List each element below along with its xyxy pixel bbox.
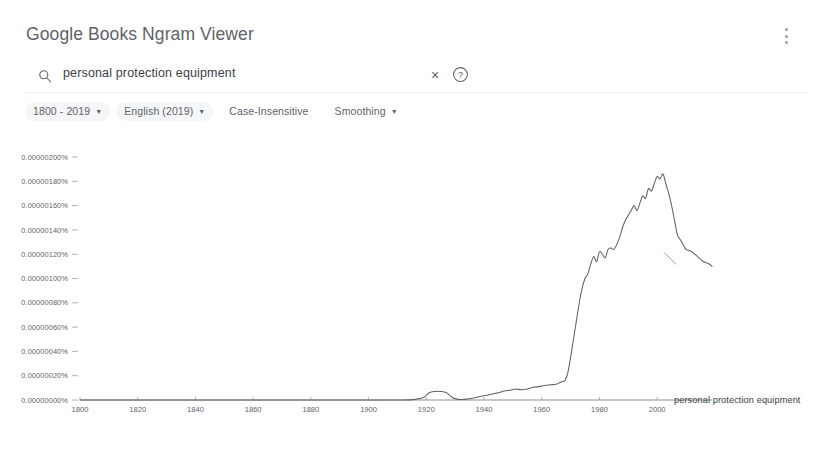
- x-axis-tick-label: 1920: [418, 405, 435, 414]
- y-axis-tick-label: 0.00000000%: [21, 396, 68, 405]
- corpus-label: English (2019): [124, 105, 193, 117]
- x-axis-tick-label: 1980: [591, 405, 608, 414]
- x-axis-tick-label: 1900: [360, 405, 377, 414]
- y-axis-tick-label: 0.00000120%: [21, 250, 68, 259]
- x-axis-tick-label: 2000: [649, 405, 666, 414]
- more-vert-dot: [785, 35, 788, 38]
- chevron-down-icon: ▼: [95, 108, 102, 115]
- more-vert-icon[interactable]: [777, 26, 795, 46]
- case-insensitive-label: Case-Insensitive: [229, 105, 308, 117]
- help-circle-icon[interactable]: ?: [452, 66, 469, 83]
- x-axis-tick-label: 1960: [533, 405, 550, 414]
- chevron-down-icon: ▼: [391, 108, 398, 115]
- x-axis-tick-label: 1820: [129, 405, 146, 414]
- filter-bar: 1800 - 2019 ▼ English (2019) ▼ Case-Inse…: [25, 101, 414, 121]
- series-label[interactable]: personal protection equipment: [674, 395, 801, 405]
- y-axis-tick-marks: [72, 157, 78, 400]
- y-axis-tick-label: 0.00000200%: [21, 153, 68, 162]
- page-title: Google Books Ngram Viewer: [26, 24, 254, 45]
- chart-canvas[interactable]: 0.00000200%0.00000180%0.00000160%0.00000…: [0, 140, 831, 455]
- chevron-down-icon: ▼: [198, 108, 205, 115]
- case-insensitive-chip[interactable]: Case-Insensitive: [219, 102, 318, 121]
- y-axis-tick-label: 0.00000100%: [21, 274, 68, 283]
- smoothing-label: Smoothing: [335, 105, 386, 117]
- app-header: Google Books Ngram Viewer: [0, 0, 831, 58]
- smoothing-chip[interactable]: Smoothing ▼: [325, 102, 408, 121]
- y-axis-tick-label: 0.00000180%: [21, 177, 68, 186]
- close-icon[interactable]: ×: [427, 67, 443, 83]
- search-divider: [25, 92, 808, 93]
- ngram-chart[interactable]: 0.00000200%0.00000180%0.00000160%0.00000…: [0, 140, 831, 455]
- x-axis-tick-label: 1940: [476, 405, 493, 414]
- y-axis-tick-labels: 0.00000200%0.00000180%0.00000160%0.00000…: [21, 153, 68, 405]
- y-axis-tick-label: 0.00000040%: [21, 347, 68, 356]
- x-axis-tick-label: 1800: [72, 405, 89, 414]
- x-axis-tick-labels: 1800182018401860188019001920194019601980…: [72, 405, 666, 414]
- y-axis-tick-label: 0.00000020%: [21, 371, 68, 380]
- more-vert-dot: [785, 41, 788, 44]
- search-icon: [38, 69, 52, 83]
- series-line-personal-protection-equipment[interactable]: [80, 174, 712, 400]
- series-label-leader-line: [664, 252, 676, 264]
- y-axis-tick-label: 0.00000080%: [21, 298, 68, 307]
- corpus-chip[interactable]: English (2019) ▼: [116, 102, 213, 121]
- y-axis-tick-label: 0.00000140%: [21, 226, 68, 235]
- y-axis-tick-label: 0.00000060%: [21, 323, 68, 332]
- x-axis-tick-label: 1860: [245, 405, 262, 414]
- more-vert-dot: [785, 28, 788, 31]
- search-row: [0, 58, 831, 91]
- svg-text:?: ?: [458, 70, 463, 80]
- y-axis-tick-label: 0.00000160%: [21, 201, 68, 210]
- date-range-label: 1800 - 2019: [33, 105, 90, 117]
- date-range-chip[interactable]: 1800 - 2019 ▼: [25, 102, 110, 121]
- x-axis-tick-label: 1880: [302, 405, 319, 414]
- x-axis-tick-label: 1840: [187, 405, 204, 414]
- search-input[interactable]: [63, 66, 413, 80]
